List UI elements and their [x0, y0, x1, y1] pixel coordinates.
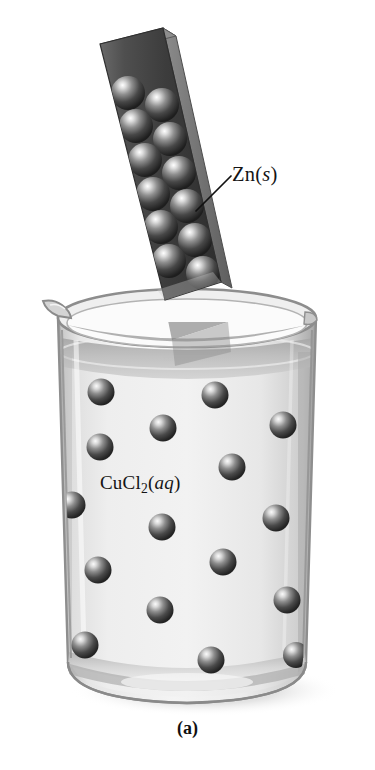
solution-sphere	[88, 379, 115, 406]
solution-sphere	[270, 412, 297, 439]
zinc-sphere	[128, 143, 162, 177]
solution-sphere	[274, 587, 301, 614]
solution-sphere	[198, 647, 225, 674]
beaker-spout	[43, 301, 71, 319]
zinc-sphere	[119, 109, 153, 143]
solution-label-subscript: 2	[141, 481, 148, 496]
solution-sphere	[219, 454, 246, 481]
solution-sphere	[210, 549, 237, 576]
solution-label-cl: Cl	[123, 472, 141, 493]
solution-sphere	[147, 597, 174, 624]
solution-label-state: aq	[155, 472, 174, 493]
solution-label: CuCl2(aq)	[100, 472, 180, 497]
beaker-illustration	[0, 0, 375, 770]
solution-sphere	[150, 415, 177, 442]
solution-sphere	[85, 557, 112, 584]
zinc-label: Zn(s)	[232, 163, 277, 186]
solution-label-cu: Cu	[100, 472, 123, 493]
zinc-metal-strip	[100, 28, 232, 300]
solution-sphere	[87, 434, 114, 461]
solution-sphere	[149, 514, 176, 541]
panel-caption: (a)	[0, 718, 375, 739]
solution-sphere	[263, 505, 290, 532]
solution-sphere	[72, 632, 99, 659]
zinc-sphere	[111, 76, 145, 110]
zinc-sphere	[152, 244, 186, 278]
zinc-label-prefix: Zn(	[232, 163, 262, 185]
beaker-base-glow	[121, 673, 253, 691]
solution-sphere	[202, 382, 229, 409]
solution-label-close-paren: )	[174, 472, 181, 493]
chemistry-figure-panel-a: Zn(s) CuCl2(aq) (a)	[0, 0, 375, 770]
zinc-label-suffix: )	[270, 163, 277, 185]
